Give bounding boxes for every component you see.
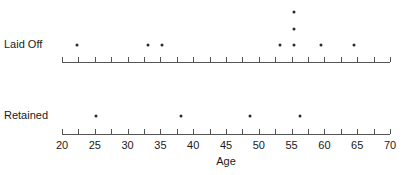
x-tick-label: 30 bbox=[121, 140, 133, 151]
x-tick-labels: 2025303540455055606570 bbox=[0, 0, 407, 175]
x-tick-label: 20 bbox=[56, 140, 68, 151]
dot-plot-chart: Laid Off Retained 2025303540455055606570… bbox=[0, 0, 407, 175]
x-tick-label: 60 bbox=[318, 140, 330, 151]
x-tick-label: 40 bbox=[187, 140, 199, 151]
x-tick-label: 50 bbox=[253, 140, 265, 151]
x-tick-label: 55 bbox=[285, 140, 297, 151]
x-tick-label: 45 bbox=[220, 140, 232, 151]
x-axis-title: Age bbox=[216, 156, 236, 167]
x-tick-label: 25 bbox=[89, 140, 101, 151]
x-tick-label: 65 bbox=[351, 140, 363, 151]
x-tick-label: 35 bbox=[154, 140, 166, 151]
x-tick-label: 70 bbox=[384, 140, 396, 151]
